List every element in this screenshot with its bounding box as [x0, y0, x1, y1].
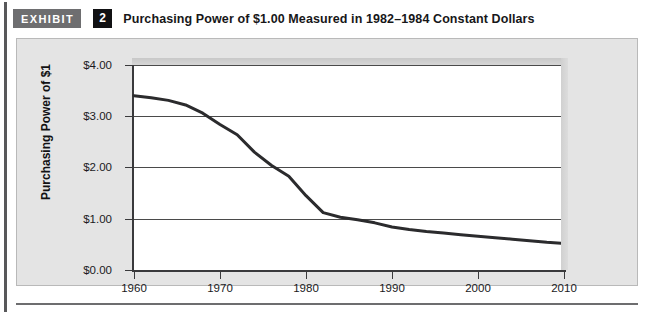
- x-tick-1990: [392, 272, 393, 279]
- x-axis-line: [132, 270, 566, 272]
- y-axis-title: Purchasing Power of $1: [39, 57, 53, 207]
- bottom-divider: [16, 303, 638, 305]
- exhibit-badge: EXHIBIT: [13, 9, 81, 28]
- exhibit-header: EXHIBIT 2 Purchasing Power of $1.00 Meas…: [13, 8, 535, 29]
- y-axis-label-0: $0.00: [56, 264, 112, 276]
- x-axis-label-1980: 1980: [283, 282, 329, 294]
- x-axis-label-1960: 1960: [111, 282, 157, 294]
- plot-shadow-right: [561, 58, 568, 270]
- x-tick-1960: [134, 272, 135, 279]
- chart-frame: $4.00 $3.00 $2.00 $1.00 $0.00 1960 1970 …: [16, 38, 638, 286]
- y-axis-label-3: $3.00: [56, 110, 112, 122]
- x-axis-label-1990: 1990: [369, 282, 415, 294]
- x-axis-label-1970: 1970: [197, 282, 243, 294]
- x-tick-1980: [306, 272, 307, 279]
- series-line-chart: [132, 65, 561, 270]
- y-axis-label-4: $4.00: [56, 59, 112, 71]
- x-tick-2010: [564, 272, 565, 279]
- y-axis-label-2: $2.00: [56, 161, 112, 173]
- x-axis-label-2010: 2010: [541, 282, 587, 294]
- y-tick-0: [125, 270, 133, 271]
- x-axis-label-2000: 2000: [455, 282, 501, 294]
- x-tick-2000: [478, 272, 479, 279]
- left-vertical-rule: [4, 2, 7, 312]
- exhibit-title: Purchasing Power of $1.00 Measured in 19…: [123, 12, 534, 26]
- y-axis-label-1: $1.00: [56, 213, 112, 225]
- x-tick-1970: [220, 272, 221, 279]
- series-polyline: [134, 96, 561, 244]
- exhibit-number-box: 2: [93, 9, 112, 28]
